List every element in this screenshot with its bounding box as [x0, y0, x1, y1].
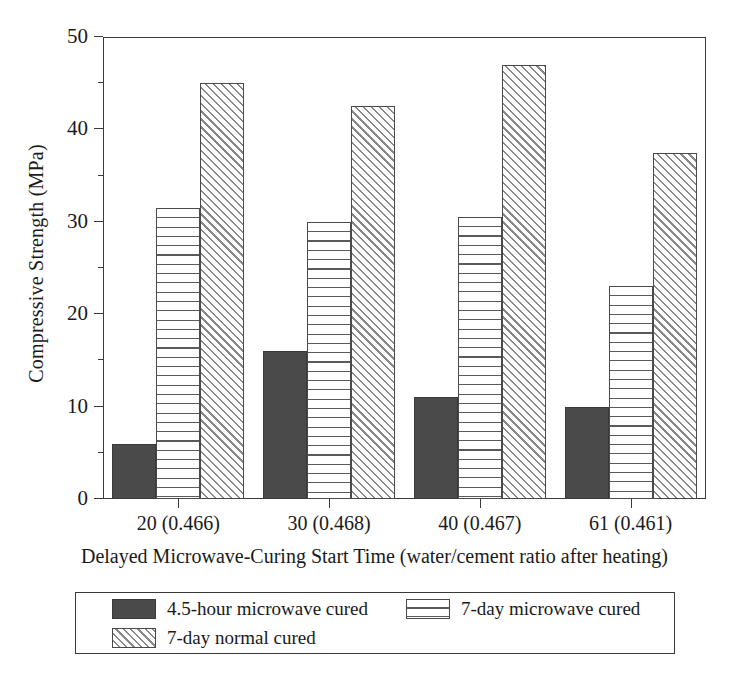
y-tick-major-40 [94, 128, 103, 129]
legend-label-2: 7-day normal cured [167, 627, 316, 648]
y-tick-major-10 [94, 406, 103, 407]
y-tick-label-20: 20 [67, 303, 88, 324]
y-tick-major-30 [94, 221, 103, 222]
legend-label-1: 7-day microwave cured [461, 598, 640, 619]
plot-frame-border [103, 37, 706, 499]
legend-item-7-day-normal-cured: 7-day normal cured [112, 623, 316, 652]
chart-plot-area: 01020304050 Compressive Strength (MPa) 2… [0, 0, 749, 580]
x-tick-label-2: 40 (0.467) [405, 512, 555, 534]
y-tick-label-10: 10 [67, 396, 88, 417]
legend-swatch-horizontal-lines-icon [406, 599, 450, 619]
legend-row-1: 4.5-hour microwave cured 7-day microwave… [76, 594, 674, 623]
y-tick-major-20 [94, 313, 103, 314]
y-axis: 01020304050 Compressive Strength (MPa) [0, 0, 103, 580]
y-tick-label-50: 50 [67, 26, 88, 47]
x-tick-label-1: 30 (0.468) [254, 512, 404, 534]
y-axis-title: Compressive Strength (MPa) [25, 64, 48, 464]
x-tick-label-3: 61 (0.461) [556, 512, 706, 534]
x-tick-1 [329, 499, 330, 508]
y-tick-label-30: 30 [67, 211, 88, 232]
legend-row-2: 7-day normal cured [76, 623, 674, 652]
x-tick-0 [178, 499, 179, 508]
bar-chart-figure: 01020304050 Compressive Strength (MPa) 2… [0, 0, 749, 682]
y-tick-major-0 [94, 498, 103, 499]
x-tick-2 [480, 499, 481, 508]
legend-label-0: 4.5-hour microwave cured [167, 598, 368, 619]
legend-item-4-5-hour-microwave-cured: 4.5-hour microwave cured [112, 594, 368, 623]
y-tick-major-50 [94, 36, 103, 37]
chart-legend: 4.5-hour microwave cured 7-day microwave… [75, 592, 675, 654]
y-tick-label-40: 40 [67, 118, 88, 139]
legend-swatch-solid-dark-icon [112, 599, 156, 619]
x-tick-3 [631, 499, 632, 508]
legend-item-7-day-microwave-cured: 7-day microwave cured [406, 594, 640, 623]
x-tick-label-0: 20 (0.466) [103, 512, 253, 534]
y-tick-label-0: 0 [78, 488, 89, 509]
x-axis-title: Delayed Microwave-Curing Start Time (wat… [0, 545, 749, 568]
legend-swatch-diagonal-hatch-icon [112, 628, 156, 648]
